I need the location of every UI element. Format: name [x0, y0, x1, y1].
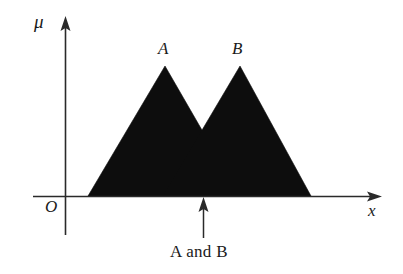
series-label-b: B	[232, 40, 242, 57]
membership-function-plot	[0, 0, 403, 274]
x-axis-label: x	[368, 202, 376, 219]
origin-label: O	[45, 198, 57, 215]
y-axis-label: μ	[34, 12, 44, 31]
membership-shapes	[88, 66, 311, 196]
y-axis	[61, 16, 71, 235]
figure-container: μ O x A B A and B	[0, 0, 403, 274]
series-label-a: A	[158, 40, 168, 57]
crossover-pointer	[199, 197, 209, 238]
crossover-caption: A and B	[170, 243, 228, 260]
